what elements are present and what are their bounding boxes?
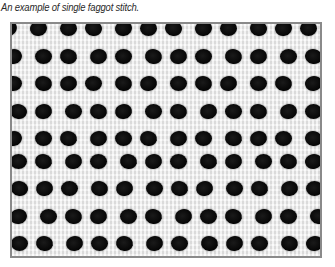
stitch-hole [195,131,212,146]
stitch-hole [115,49,132,64]
stitch-hole [91,236,108,251]
stitch-hole [85,76,102,91]
stitch-hole [251,236,268,251]
stitch-hole [226,181,243,196]
stitch-hole [171,236,188,251]
stitch-hole [250,76,267,91]
stitch-hole [200,209,217,224]
stitch-hole [115,131,132,146]
stitch-photo [10,22,322,258]
stitch-hole [170,76,187,91]
stitch-hole [145,104,162,119]
stitch-hole [146,181,163,196]
stitch-hole [280,49,297,64]
fabric-texture [12,24,320,256]
stitch-hole [120,209,137,224]
stitch-hole [275,131,292,146]
stitch-hole [280,209,297,224]
figure-caption: An example of single faggot stitch. [1,1,139,13]
stitch-hole [10,154,27,169]
stitch-hole [11,236,28,251]
stitch-hole [225,104,242,119]
stitch-hole [306,181,322,196]
stitch-hole [305,104,322,119]
stitch-hole [255,154,272,169]
stitch-hole [40,209,57,224]
stitch-hole [61,181,78,196]
stitch-hole [35,49,52,64]
stitch-hole [35,131,52,146]
stitch-hole [65,104,82,119]
stitch-hole [195,49,212,64]
stitch-hole [170,154,187,169]
stitch-hole [90,154,107,169]
